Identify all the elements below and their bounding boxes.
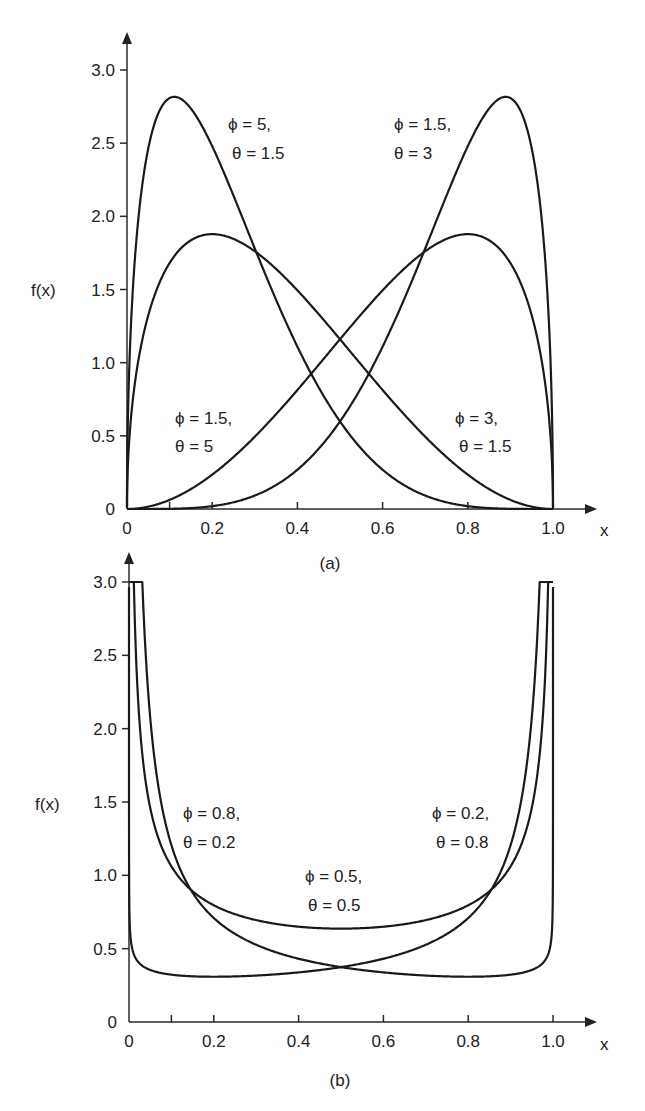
y-tick-label: 1.0 — [91, 354, 115, 373]
x-tick-label: 0.6 — [372, 1032, 396, 1051]
svg-text:θ = 0.2: θ = 0.2 — [183, 833, 235, 852]
annotation-phi3-theta1.5: ϕ = 3, θ = 1.5 — [455, 409, 511, 456]
x-tick-label: 0 — [124, 1032, 133, 1051]
panel-b-caption: (b) — [330, 1071, 351, 1090]
svg-text:ϕ = 3,: ϕ = 3, — [455, 409, 498, 428]
x-tick-label: 0.2 — [200, 519, 224, 538]
annotation-phi0.5-theta0.5: ϕ = 0.5, θ = 0.5 — [305, 867, 362, 915]
svg-text:ϕ = 0.5,: ϕ = 0.5, — [305, 867, 362, 886]
annotation-phi5-theta1.5: ϕ = 5, θ = 1.5 — [228, 115, 284, 163]
svg-text:θ = 3: θ = 3 — [394, 144, 432, 163]
svg-text:θ = 0.8: θ = 0.8 — [436, 833, 488, 852]
panel-b-y-axis-label: f(x) — [35, 795, 60, 814]
x-tick-label: 0.6 — [371, 519, 395, 538]
y-tick-label: 1.5 — [91, 281, 115, 300]
y-tick-label: 2.5 — [91, 134, 115, 153]
x-tick-label: 1.0 — [541, 1032, 565, 1051]
panel-b-x-axis: 00.20.40.60.81.0 — [124, 1015, 595, 1051]
y-tick-label: 3.0 — [93, 573, 117, 592]
y-tick-label: 1.5 — [93, 793, 117, 812]
svg-text:ϕ = 5,: ϕ = 5, — [228, 115, 271, 134]
panel-b-x-axis-label: x — [600, 1035, 609, 1054]
svg-text:θ = 1.5: θ = 1.5 — [459, 437, 511, 456]
svg-text:θ = 0.5: θ = 0.5 — [308, 896, 360, 915]
y-tick-label: 2.0 — [93, 720, 117, 739]
panel-a-y-axis-label: f(x) — [31, 281, 56, 300]
svg-text:θ = 1.5: θ = 1.5 — [232, 144, 284, 163]
annotation-phi1.5-theta3: ϕ = 1.5, θ = 3 — [394, 115, 451, 163]
panel-a: 00.51.01.52.02.53.0 00.20.40.60.81.0 f(x… — [31, 34, 609, 573]
curve--3-1.5 — [127, 234, 553, 509]
x-tick-label: 0.4 — [287, 1032, 311, 1051]
panel-a-y-axis: 00.51.01.52.02.53.0 — [91, 34, 127, 519]
annotation-phi1.5-theta5: ϕ = 1.5, θ = 5 — [175, 409, 232, 456]
annotation-phi0.8-theta0.2: ϕ = 0.8, θ = 0.2 — [183, 804, 240, 852]
y-tick-label: 0 — [106, 500, 115, 519]
x-tick-label: 0.8 — [456, 1032, 480, 1051]
svg-text:ϕ = 0.2,: ϕ = 0.2, — [432, 804, 489, 823]
y-tick-label: 0 — [108, 1013, 117, 1032]
x-tick-label: 0 — [122, 519, 131, 538]
x-tick-label: 0.2 — [202, 1032, 226, 1051]
y-tick-label: 2.0 — [91, 207, 115, 226]
svg-text:ϕ = 1.5,: ϕ = 1.5, — [175, 409, 232, 428]
y-tick-label: 2.5 — [93, 646, 117, 665]
y-tick-label: 1.0 — [93, 866, 117, 885]
panel-b-curves — [129, 582, 553, 977]
y-tick-label: 0.5 — [93, 940, 117, 959]
curve--0.2-0.8 — [129, 582, 553, 977]
annotation-phi0.2-theta0.8: ϕ = 0.2, θ = 0.8 — [432, 804, 489, 852]
panel-a-x-axis-label: x — [600, 521, 609, 540]
svg-text:ϕ = 0.8,: ϕ = 0.8, — [183, 804, 240, 823]
x-tick-label: 0.4 — [286, 519, 310, 538]
svg-text:θ = 5: θ = 5 — [175, 437, 213, 456]
svg-text:ϕ = 1.5,: ϕ = 1.5, — [394, 115, 451, 134]
x-tick-label: 0.8 — [456, 519, 480, 538]
panel-b-y-axis: 00.51.01.52.02.53.0 — [93, 554, 129, 1032]
panel-a-caption: (a) — [320, 554, 341, 573]
curve--1.5-3 — [127, 234, 553, 509]
panel-b: 00.51.01.52.02.53.0 00.20.40.60.81.0 f(x… — [35, 554, 609, 1090]
x-tick-label: 1.0 — [541, 519, 565, 538]
y-tick-label: 0.5 — [91, 427, 115, 446]
curve--0.8-0.2 — [129, 582, 553, 977]
beta-density-figure: 00.51.01.52.02.53.0 00.20.40.60.81.0 f(x… — [0, 0, 645, 1111]
y-tick-label: 3.0 — [91, 61, 115, 80]
